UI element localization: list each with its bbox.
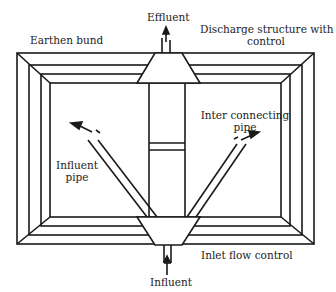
influent-label: Influent	[150, 277, 192, 288]
influent-pipe-right	[187, 131, 259, 217]
influent-inlet	[164, 245, 171, 275]
inlet-flow-control	[137, 217, 200, 245]
effluent-label: Effluent	[147, 12, 189, 23]
influent-pipe-label-line1: Influent	[54, 160, 100, 171]
discharge-structure	[137, 53, 200, 83]
earthen-bund-label: Earthen bund	[30, 35, 103, 46]
discharge-structure-label-line2: control	[200, 36, 332, 47]
effluent-outlet	[162, 27, 170, 53]
inlet-flow-control-label: Inlet flow control	[201, 250, 293, 261]
inter-connecting-pipe	[149, 83, 185, 217]
influent-pipe-label-line2: pipe	[54, 172, 100, 183]
inter-connecting-pipe-label-line2: pipe	[190, 122, 300, 133]
inter-connecting-pipe-label-line1: Inter connecting	[190, 110, 300, 121]
discharge-structure-label-line1: Discharge structure with	[200, 24, 332, 35]
